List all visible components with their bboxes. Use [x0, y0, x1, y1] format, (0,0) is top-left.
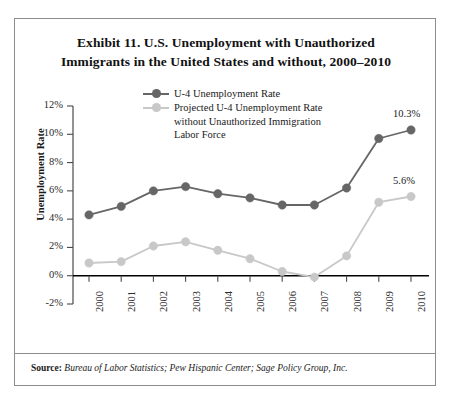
series-data-point — [310, 201, 318, 209]
y-axis-tick-label: 8% — [29, 156, 63, 167]
x-axis-tick-label: 2008 — [352, 291, 363, 312]
legend-marker-icon — [143, 87, 169, 100]
chart-plot-area: Unemployment Rate -2%0%2%4%6%8%10%12% 20… — [15, 19, 437, 387]
legend-label-continuation: Labor Force — [174, 128, 322, 141]
legend-label: Projected U-4 Unemployment Rate — [174, 102, 322, 113]
source-label: Source: — [31, 363, 62, 373]
series-data-point — [342, 184, 350, 192]
series-data-point — [214, 246, 222, 254]
legend-item[interactable]: U-4 Unemployment Rate — [143, 87, 322, 100]
data-point-label: 10.3% — [393, 108, 420, 119]
figure-container: Exhibit 11. U.S. Unemployment with Unaut… — [14, 18, 436, 386]
chart-legend: U-4 Unemployment RateProjected U-4 Unemp… — [143, 87, 322, 141]
y-axis-tick-label: 6% — [29, 184, 63, 195]
series-data-point — [407, 126, 415, 134]
series-data-point — [375, 198, 383, 206]
y-axis-tick-label: 2% — [29, 240, 63, 251]
y-axis-tick-label: 10% — [29, 127, 63, 138]
x-axis-tick-label: 2004 — [223, 291, 234, 312]
data-point-label: 5.6% — [393, 175, 415, 186]
x-axis-tick-label: 2006 — [287, 291, 298, 312]
y-axis-tick-label: -2% — [29, 297, 63, 308]
legend-label-continuation: without Unauthorized Immigration — [174, 115, 322, 128]
series-data-point — [375, 134, 383, 142]
source-text: Bureau of Labor Statistics; Pew Hispanic… — [62, 363, 348, 373]
series-data-point — [246, 255, 254, 263]
y-axis-tick-label: 4% — [29, 212, 63, 223]
legend-label: U-4 Unemployment Rate — [174, 88, 280, 99]
series-data-point — [278, 267, 286, 275]
series-data-point — [407, 192, 415, 200]
legend-marker-icon — [143, 101, 169, 114]
x-axis-tick-label: 2003 — [191, 291, 202, 312]
series-data-point — [278, 201, 286, 209]
data-series-group — [85, 126, 415, 282]
x-axis-tick-label: 2007 — [319, 291, 330, 312]
series-data-point — [85, 259, 93, 267]
chart-svg — [15, 19, 437, 387]
series-data-point — [214, 190, 222, 198]
x-axis-tick-label: 2005 — [255, 291, 266, 312]
series-data-point — [181, 238, 189, 246]
legend-item[interactable]: Projected U-4 Unemployment Rate — [143, 101, 322, 114]
series-data-point — [117, 202, 125, 210]
series-data-point — [246, 194, 254, 202]
x-axis-tick-label: 2010 — [416, 291, 427, 312]
y-axis-tick-label: 0% — [29, 269, 63, 280]
series-data-point — [181, 182, 189, 190]
series-data-point — [149, 187, 157, 195]
series-data-point — [117, 257, 125, 265]
series-data-point — [342, 252, 350, 260]
x-axis-tick-label: 2000 — [94, 291, 105, 312]
series-line — [89, 197, 411, 278]
series-data-point — [85, 211, 93, 219]
y-axis-tick-label: 12% — [29, 99, 63, 110]
series-data-point — [149, 242, 157, 250]
x-axis-tick-label: 2009 — [384, 291, 395, 312]
source-divider — [15, 353, 435, 354]
source-note: Source: Bureau of Labor Statistics; Pew … — [31, 363, 348, 373]
x-axis-tick-label: 2002 — [158, 291, 169, 312]
series-data-point — [310, 273, 318, 281]
x-axis-tick-label: 2001 — [126, 291, 137, 312]
